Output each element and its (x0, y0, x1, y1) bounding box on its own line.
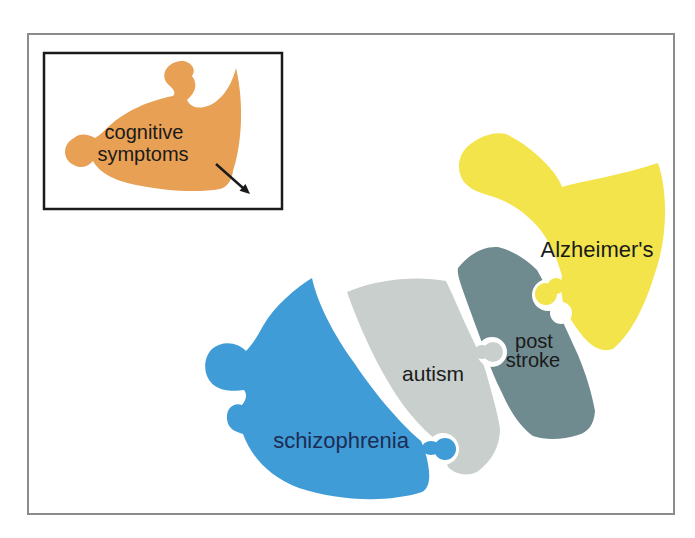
alzheimers-tab-knob (535, 283, 557, 305)
alzheimers-label: Alzheimer's (540, 237, 653, 262)
puzzle-diagram: cognitive symptoms schizophrenia autism … (0, 0, 695, 538)
post-stroke-label-line2: stroke (506, 349, 560, 371)
figure-canvas: cognitive symptoms schizophrenia autism … (0, 0, 695, 538)
alzheimers-socket-gap (550, 302, 572, 324)
schizophrenia-tab-knob (434, 438, 456, 460)
autism-label: autism (402, 362, 464, 385)
legend-label-line2: symptoms (97, 143, 188, 165)
legend-label-line1: cognitive (105, 121, 184, 143)
schizophrenia-label: schizophrenia (273, 428, 410, 453)
autism-tab-knob (483, 342, 503, 362)
